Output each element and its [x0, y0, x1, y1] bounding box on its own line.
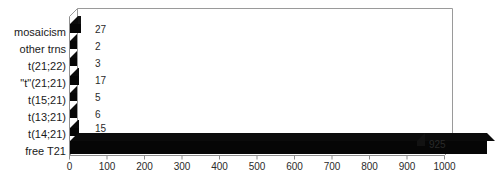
back-wall: [78, 9, 453, 148]
category-label-t1421: t(14;21): [28, 129, 66, 140]
value-label-t1321: 6: [95, 110, 101, 120]
category-label-other-trns: other trns: [20, 44, 66, 55]
xtick-label-700: 700: [312, 162, 352, 172]
bar-front-t2122: [70, 58, 77, 66]
xtick-label-1000: 1000: [425, 162, 465, 172]
value-label-t1521: 5: [95, 93, 101, 103]
xtick-label-300: 300: [162, 162, 202, 172]
bar-front-other-trns: [70, 41, 77, 49]
xtick-label-500: 500: [237, 162, 277, 172]
depth-line-top-left: [70, 9, 78, 17]
category-label-t1321: t(13;21): [28, 112, 66, 123]
xtick-label-200: 200: [125, 162, 165, 172]
category-label-t1521: t(15;21): [28, 95, 66, 106]
xtick-label-400: 400: [200, 162, 240, 172]
value-label-t2121: 17: [95, 76, 106, 86]
xtick-label-100: 100: [87, 162, 127, 172]
bar-front-t2121: [70, 76, 79, 85]
bar-front-t1321: [70, 110, 77, 118]
value-label-t1421: 15: [95, 124, 106, 134]
category-label-mosaicism: mosaicism: [14, 27, 66, 38]
xtick-label-900: 900: [387, 162, 427, 172]
bar-free-mosaicism: [70, 24, 81, 33]
value-label-mosaicism: 27: [95, 25, 106, 35]
value-label-t2122: 3: [95, 59, 101, 69]
xtick-label-800: 800: [350, 162, 390, 172]
bar-front-t1521: [70, 93, 77, 101]
category-label-t2121: "t"(21;21): [20, 78, 66, 89]
xtick-label-0: 0: [50, 162, 90, 172]
xtick-label-600: 600: [275, 162, 315, 172]
value-label-other-trns: 2: [95, 42, 101, 52]
category-label-t2122: t(21;22): [28, 61, 66, 72]
value-label-free-t21: 925: [429, 140, 446, 150]
x-axis-ticks: [70, 156, 445, 160]
category-label-free-t21: free T21: [25, 146, 66, 157]
